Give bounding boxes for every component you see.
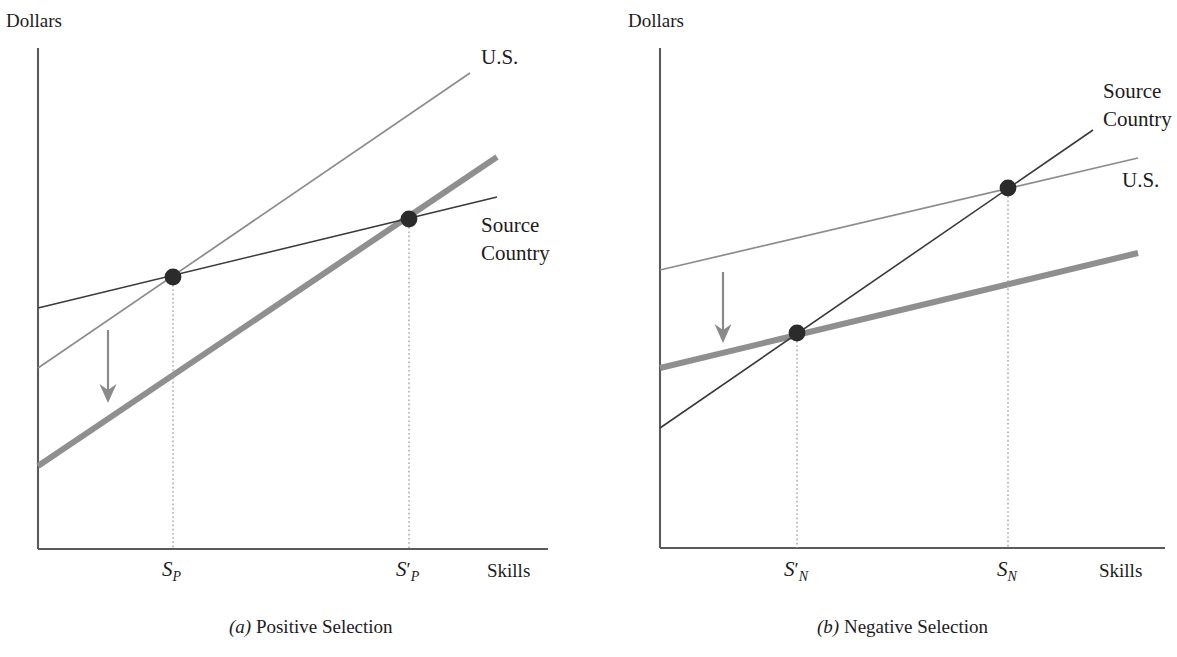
panel-a-caption: (a) Positive Selection: [229, 616, 393, 638]
panel-a-caption-text: Positive Selection: [251, 616, 392, 637]
panel-a-label-us: U.S.: [481, 45, 518, 70]
panel-b-caption-prefix: (b): [817, 616, 839, 637]
figure-root: Dollars U.S. Source Country SP S′P Skill…: [0, 0, 1177, 657]
panel-b-caption-text: Negative Selection: [839, 616, 988, 637]
panel-b-line-us: [660, 158, 1138, 270]
panel-a-equilibrium-dot-initial: [165, 269, 182, 286]
panel-a-caption-prefix: (a): [229, 616, 251, 637]
panel-b-caption: (b) Negative Selection: [817, 616, 988, 638]
panel-a-line-source-country: [38, 197, 497, 308]
panel-a-shift-arrow-icon: [100, 330, 117, 403]
panel-a-xtick-1-sub: P: [173, 569, 182, 584]
panel-b-label-source-line2: Country: [1103, 105, 1172, 133]
panel-a-label-source-line1: Source: [481, 211, 550, 239]
panel-b-label-source-line1: Source: [1103, 77, 1172, 105]
panel-b-xtick-2-base: S: [997, 557, 1008, 581]
panel-b-graphics: [660, 48, 1165, 548]
panel-b-label-source-country: Source Country: [1103, 77, 1172, 134]
panel-b-xtick-1-base: S: [784, 557, 795, 581]
panel-b-y-axis-label: Dollars: [628, 10, 684, 32]
panel-a-label-source-country: Source Country: [481, 211, 550, 268]
panel-b-xtick-1: S′N: [784, 557, 808, 582]
panel-b-equilibrium-dot-initial: [1000, 180, 1017, 197]
panel-a-label-source-line2: Country: [481, 239, 550, 267]
panel-a-line-us-shifted: [38, 157, 497, 466]
panel-b-xtick-1-sub: N: [799, 569, 808, 584]
panel-a-xtick-2-base: S: [396, 557, 407, 581]
panel-a-xtick-2-sub: P: [411, 569, 420, 584]
panel-a-xtick-1: SP: [162, 557, 181, 582]
panel-b-label-us: U.S.: [1122, 168, 1159, 193]
panel-a-y-axis-label: Dollars: [6, 10, 62, 32]
panel-b-xtick-2-sub: N: [1008, 569, 1017, 584]
panel-a-x-axis-label: Skills: [487, 560, 530, 582]
panel-a-equilibrium-dot-shifted: [401, 211, 418, 228]
panel-b-shift-arrow-icon: [715, 272, 732, 343]
panel-b-x-axis-label: Skills: [1099, 560, 1142, 582]
panel-b-line-us-shifted: [660, 253, 1138, 368]
panel-a-xtick-1-base: S: [162, 557, 173, 581]
panel-a-xtick-2: S′P: [396, 557, 419, 582]
panel-a-graphics: [38, 48, 548, 549]
panel-b-equilibrium-dot-shifted: [789, 325, 806, 342]
panel-b-xtick-2: SN: [997, 557, 1017, 582]
